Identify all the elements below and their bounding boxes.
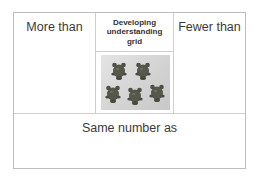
grid-title: Developing understanding grid [96,13,173,52]
grid-title-line-2: understanding [107,27,163,37]
counter-icon [111,63,126,80]
counters-photo [101,55,170,110]
bear-counters-image [101,55,170,110]
developing-understanding-grid: More than Developing understanding grid [13,12,246,169]
fewer-than-label: Fewer than [174,20,245,34]
counter-icon [149,85,164,102]
counter-icon [135,63,150,80]
grid-title-line-1: Developing [107,18,163,28]
same-number-label: Same number as [14,121,245,135]
grid-title-cell: Developing understanding grid [96,13,174,113]
counter-icon [127,88,142,105]
grid-top-row: More than Developing understanding grid [14,13,245,114]
same-number-cell: Same number as [14,114,245,168]
counter-icon [105,86,120,103]
more-than-cell: More than [14,13,96,113]
grid-title-line-3: grid [107,37,163,47]
fewer-than-cell: Fewer than [174,13,245,113]
more-than-label: More than [14,20,95,34]
